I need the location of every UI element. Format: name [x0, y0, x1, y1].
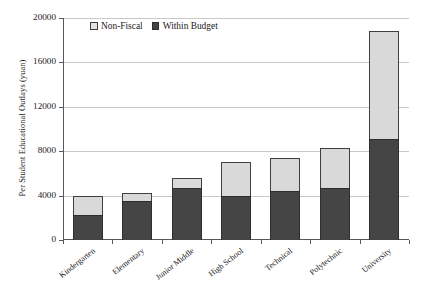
legend-item-within-budget[interactable]: Within Budget: [152, 21, 218, 31]
x-axis-label: Elementary: [97, 247, 146, 288]
bar-group[interactable]: [270, 158, 300, 240]
bar-group[interactable]: [122, 193, 152, 240]
bar-group[interactable]: [73, 196, 103, 240]
y-tick-label: 16000: [0, 58, 56, 67]
bar-segment-within-budget[interactable]: [369, 139, 399, 240]
bar-segment-within-budget[interactable]: [73, 215, 103, 240]
y-tick-label: 12000: [0, 102, 56, 111]
x-axis-label: Junior Middle: [146, 247, 195, 288]
x-tick-mark: [112, 240, 113, 244]
x-axis-label: High School: [196, 247, 245, 288]
legend-label: Non-Fiscal: [101, 21, 143, 31]
x-tick-mark: [63, 240, 64, 244]
chart-legend: Non-Fiscal Within Budget: [90, 21, 218, 31]
bar-group[interactable]: [172, 178, 202, 240]
y-axis-title: Per Student Educational Outlays (yuan): [14, 8, 32, 248]
x-tick-mark: [211, 240, 212, 244]
bar-segment-non-fiscal[interactable]: [270, 158, 300, 190]
bar-segment-non-fiscal[interactable]: [369, 31, 399, 139]
bar-group[interactable]: [369, 31, 399, 240]
x-tick-mark: [310, 240, 311, 244]
bar-segment-within-budget[interactable]: [320, 188, 350, 240]
x-tick-mark: [409, 240, 410, 244]
x-tick-mark: [261, 240, 262, 244]
y-tick-label: 8000: [0, 147, 56, 156]
bar-segment-within-budget[interactable]: [122, 201, 152, 240]
y-tick-label: 20000: [0, 13, 56, 22]
legend-label: Within Budget: [163, 21, 218, 31]
bar-segment-non-fiscal[interactable]: [320, 148, 350, 188]
x-axis-label: Polytechnic: [295, 247, 344, 288]
x-axis-label: University: [344, 247, 393, 288]
x-axis-label: Kindergarten: [48, 247, 97, 288]
bar-segment-non-fiscal[interactable]: [73, 196, 103, 215]
legend-swatch-icon: [152, 22, 160, 30]
bars-layer: [63, 18, 409, 240]
bar-segment-within-budget[interactable]: [172, 188, 202, 240]
bar-segment-non-fiscal[interactable]: [122, 193, 152, 200]
bar-group[interactable]: [320, 148, 350, 240]
legend-swatch-icon: [90, 22, 98, 30]
y-tick-label: 4000: [0, 191, 56, 200]
x-tick-mark: [360, 240, 361, 244]
y-tick-label: 0: [0, 235, 56, 244]
bar-segment-within-budget[interactable]: [221, 196, 251, 240]
legend-item-non-fiscal[interactable]: Non-Fiscal: [90, 21, 143, 31]
x-axis-label: Technical: [245, 247, 294, 288]
bar-group[interactable]: [221, 162, 251, 240]
x-tick-mark: [162, 240, 163, 244]
bar-segment-within-budget[interactable]: [270, 191, 300, 240]
bar-segment-non-fiscal[interactable]: [221, 162, 251, 196]
bar-segment-non-fiscal[interactable]: [172, 178, 202, 189]
stacked-bar-chart: Per Student Educational Outlays (yuan) 0…: [0, 0, 421, 302]
